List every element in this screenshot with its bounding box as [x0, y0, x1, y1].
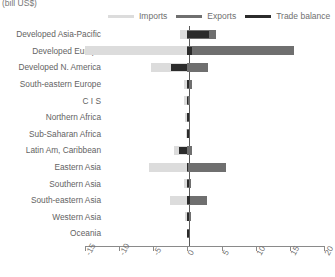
bar-balance [187, 180, 188, 188]
bar-exports [187, 146, 191, 155]
bar-balance [187, 31, 208, 39]
legend-swatch-balance [245, 15, 271, 18]
bar-balance [187, 97, 188, 105]
bar-group [85, 175, 324, 192]
bar-group [85, 126, 324, 143]
x-tick-label: 20 [322, 244, 335, 257]
bar-exports [187, 163, 225, 172]
bar-balance [187, 130, 188, 138]
bar-group [85, 209, 324, 226]
chart-row: Oceania [0, 225, 324, 242]
chart-row: Southern Asia [0, 175, 324, 192]
bar-group [85, 92, 324, 109]
bar-balance [187, 80, 188, 88]
bar-balance [187, 213, 188, 221]
chart-row: South-eastern Asia [0, 192, 324, 209]
x-tick-label: 0 [185, 248, 196, 257]
legend-item-balance[interactable]: Trade balance [245, 11, 330, 21]
bar-group [85, 43, 324, 60]
legend-item-imports[interactable]: Imports [108, 11, 167, 21]
chart-row: Western Asia [0, 209, 324, 226]
bar-balance [171, 64, 187, 72]
bar-balance [179, 147, 188, 155]
bar-balance [187, 163, 188, 171]
bar-group [85, 159, 324, 176]
bar-group [85, 59, 324, 76]
x-tick-label: 5 [220, 248, 231, 257]
plot-area: Developed Asia-PacificDeveloped EuropeDe… [0, 26, 324, 244]
legend-label-imports: Imports [139, 11, 167, 21]
bar-exports [187, 46, 294, 55]
chart-row: South-eastern Europe [0, 76, 324, 93]
bar-group [85, 142, 324, 159]
unit-label: (bill US$) [2, 0, 37, 8]
bar-balance [187, 113, 188, 121]
chart-row: Eastern Asia [0, 159, 324, 176]
bar-group [85, 26, 324, 43]
chart-row: C I S [0, 92, 324, 109]
chart-legend: ImportsExportsTrade balance [108, 9, 324, 23]
bar-imports [180, 30, 188, 39]
bar-balance [187, 196, 190, 204]
legend-swatch-imports [108, 15, 134, 18]
bar-exports [187, 196, 207, 205]
legend-label-balance: Trade balance [276, 11, 330, 21]
bar-group [85, 225, 324, 242]
bar-group [85, 109, 324, 126]
x-axis: -15-10-505101520 [85, 246, 324, 277]
legend-swatch-exports [176, 15, 202, 18]
chart-row: Sub-Saharan Africa [0, 126, 324, 143]
bar-group [85, 192, 324, 209]
bar-imports [85, 46, 187, 55]
x-tick-label: -5 [151, 246, 163, 257]
legend-label-exports: Exports [207, 11, 236, 21]
chart-row: Latin Am, Caribbean [0, 142, 324, 159]
legend-item-exports[interactable]: Exports [176, 11, 236, 21]
bar-imports [170, 196, 187, 205]
bar-balance [187, 47, 191, 55]
bar-balance [187, 230, 188, 238]
chart-row: Developed Asia-Pacific [0, 26, 324, 43]
chart-row: Developed Europe [0, 43, 324, 60]
bar-imports [149, 163, 188, 172]
bar-group [85, 76, 324, 93]
chart-row: Developed N. America [0, 59, 324, 76]
bar-exports [187, 63, 207, 72]
chart-row: Northern Africa [0, 109, 324, 126]
